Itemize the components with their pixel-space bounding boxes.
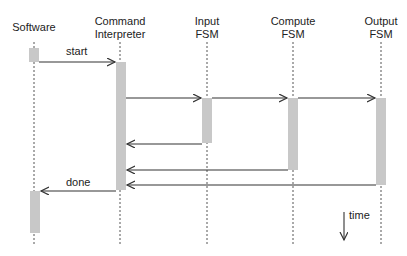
participant-label-line1: Output (351, 15, 407, 28)
participant-compute-fsm: Compute FSM (263, 15, 323, 41)
participant-label-line1: Compute (263, 15, 323, 28)
participant-command-interpreter: Command Interpreter (85, 15, 155, 41)
participant-input-fsm: Input FSM (177, 15, 237, 41)
participant-label-line1: Command (85, 15, 155, 28)
activation-command-interpreter (116, 62, 126, 190)
participant-label-line2: FSM (177, 28, 237, 41)
message-label-done: done (66, 176, 90, 188)
message-label-start: start (66, 45, 87, 57)
activation-input-fsm (202, 98, 212, 143)
activation-compute-fsm (288, 98, 298, 170)
participant-label-line1: Input (177, 15, 237, 28)
participant-label-line2: FSM (263, 28, 323, 41)
participant-software: Software (4, 21, 64, 34)
activation-software-2 (30, 191, 40, 233)
time-label: time (349, 209, 370, 221)
activation-output-fsm (376, 98, 386, 185)
participant-label-line2: FSM (351, 28, 407, 41)
participant-label: Software (4, 21, 64, 34)
participant-output-fsm: Output FSM (351, 15, 407, 41)
participant-label-line2: Interpreter (85, 28, 155, 41)
activation-software-1 (29, 48, 39, 62)
